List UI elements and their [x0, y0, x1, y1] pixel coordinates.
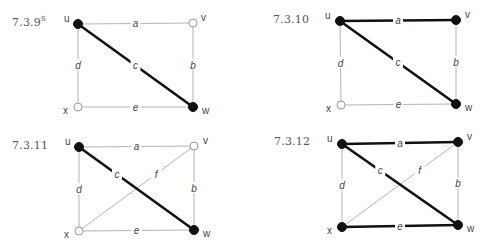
vertex-label-v: v — [201, 12, 206, 23]
vertex-u-filled — [74, 20, 83, 29]
edge-label-d: d — [76, 184, 82, 195]
graph-7-3-10: abcdeuvwx — [325, 9, 473, 114]
vertex-w-filled — [452, 100, 461, 109]
vertex-label-u: u — [327, 133, 333, 144]
vertex-label-w: w — [202, 228, 211, 239]
vertex-x-open — [75, 227, 83, 235]
vertex-label-v: v — [465, 9, 470, 20]
edge-label-a: a — [134, 141, 140, 152]
edge-label-c: c — [396, 57, 401, 68]
vertex-w-filled — [454, 221, 463, 230]
edge-c — [79, 147, 194, 230]
edge-label-e: e — [396, 99, 402, 110]
vertex-label-x: x — [64, 229, 69, 240]
vertex-x-open — [337, 101, 345, 109]
vertex-w-filled — [189, 103, 198, 112]
edge-label-b: b — [190, 60, 196, 71]
graph-7-3-11: abcdefuvwx — [64, 135, 211, 240]
vertex-label-w: w — [466, 223, 475, 234]
vertex-label-w: w — [464, 102, 473, 113]
vertex-x-filled — [338, 223, 347, 232]
edge-label-d: d — [338, 58, 344, 69]
edge-label-b: b — [455, 178, 461, 189]
vertex-u-filled — [338, 140, 347, 149]
graph-drawings: abcdeuvwxabcdeuvwxabcdefuvwxabcdefuvwx — [0, 0, 482, 247]
edge-label-e: e — [134, 225, 140, 236]
vertex-w-filled — [190, 226, 199, 235]
vertex-label-v: v — [467, 131, 472, 142]
vertex-label-x: x — [327, 225, 332, 236]
vertex-label-w: w — [201, 105, 210, 116]
edge-label-d: d — [339, 180, 345, 191]
vertex-u-filled — [336, 17, 345, 26]
vertex-v-open — [190, 142, 198, 150]
edge-label-a: a — [395, 15, 401, 26]
edge-label-b: b — [191, 183, 197, 194]
edge-label-c: c — [133, 60, 138, 71]
edge-label-e: e — [397, 221, 403, 232]
edge-c — [342, 144, 458, 225]
vertex-label-x: x — [63, 105, 68, 116]
vertex-u-filled — [75, 143, 84, 152]
vertex-x-open — [74, 103, 82, 111]
vertex-label-x: x — [326, 103, 331, 114]
graph-7-3-9: abcdeuvwx — [63, 12, 210, 116]
edge-label-c: c — [114, 169, 119, 180]
vertex-v-filled — [454, 138, 463, 147]
edge-label-b: b — [453, 57, 459, 68]
vertex-label-u: u — [64, 13, 70, 24]
edge-label-a: a — [133, 18, 139, 29]
vertex-label-v: v — [203, 135, 208, 146]
edge-label-a: a — [397, 138, 403, 149]
vertex-v-filled — [452, 16, 461, 25]
vertex-v-open — [189, 19, 197, 27]
graph-7-3-12: abcdefuvwx — [327, 131, 475, 236]
vertex-label-u: u — [325, 10, 331, 21]
edge-label-c: c — [378, 165, 383, 176]
vertex-label-u: u — [65, 136, 71, 147]
edge-label-d: d — [75, 60, 81, 71]
edge-label-e: e — [133, 102, 139, 113]
